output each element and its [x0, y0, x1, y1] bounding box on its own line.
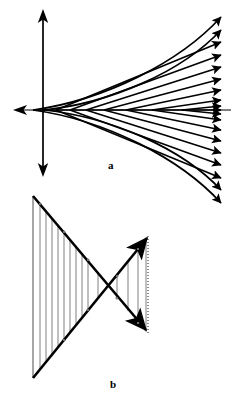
panel-label-a: a: [108, 160, 114, 171]
panel-b-hatch-right: [117, 239, 146, 332]
figure-container: a b: [0, 0, 231, 403]
panel-b-diagonal-ascending: [33, 238, 147, 378]
panel-label-b: b: [110, 379, 116, 390]
panel-b: [33, 196, 148, 378]
panel-a-rays-lower: [33, 110, 221, 203]
geometry-figure-svg: [0, 0, 231, 403]
panel-a-rays-upper: [33, 17, 221, 110]
panel-a-vertical-axis: [38, 9, 48, 177]
panel-b-node-marks: [39, 203, 139, 341]
panel-b-hatch-left: [40, 204, 98, 370]
panel-a: [13, 9, 231, 203]
